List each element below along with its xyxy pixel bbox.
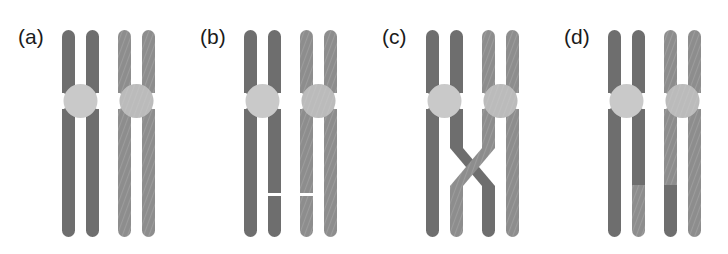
chromatid-upper-arm: [324, 30, 337, 93]
centromere: [610, 84, 644, 118]
chromatid-4: [316, 30, 338, 237]
recombinant-exchanged-segment: [632, 185, 645, 237]
chromatid-lower-arm-proximal-segment: [664, 109, 677, 185]
chromatid-lower-arm: [118, 109, 131, 237]
chromatid-lower-arm: [608, 109, 621, 237]
chromosome-pair-drawing: [0, 0, 182, 254]
centromere-hatch-overlay: [120, 84, 154, 118]
panel-d: (d): [546, 0, 728, 254]
chromatid-1: [62, 30, 84, 237]
double-strand-break-line: [299, 193, 314, 196]
chromatid-2: [260, 30, 283, 237]
panel-a: (a): [0, 0, 182, 254]
chromatid-upper-arm: [450, 30, 463, 93]
chromatid-upper-arm: [118, 30, 131, 93]
chromatid-4: [134, 30, 156, 237]
chromatid-3: [299, 30, 322, 237]
chromatid-upper-arm: [426, 30, 439, 93]
chromatid-2: [78, 30, 100, 237]
recombinant-exchanged-segment: [664, 185, 677, 237]
centromere: [246, 84, 280, 118]
chromatid-1: [608, 30, 630, 237]
chromatid-upper-arm: [608, 30, 621, 93]
chromatid-upper-arm: [688, 30, 701, 93]
chromatid-upper-arm: [300, 30, 313, 93]
centromere: [64, 84, 98, 118]
chromatid-upper-arm: [482, 30, 495, 93]
chromatid-lower-arm: [426, 109, 439, 237]
chromatid-lower-arm-proximal-segment: [632, 109, 645, 185]
panel-c: (c): [364, 0, 546, 254]
centromere-hatch-overlay: [666, 84, 700, 118]
chromatid-lower-arm: [62, 109, 75, 237]
chromatid-3: [118, 30, 140, 237]
chromatid-upper-arm: [664, 30, 677, 93]
chromatid-lower-arm: [86, 109, 99, 237]
chromatid-lower-arm: [324, 109, 337, 237]
panel-b: (b): [182, 0, 364, 254]
chromatid-upper-arm: [244, 30, 257, 93]
chromatid-upper-arm: [142, 30, 155, 93]
centromere: [428, 84, 462, 118]
chromatid-lower-arm: [268, 109, 281, 237]
chromosome-pair-drawing: [546, 0, 728, 254]
chromatid-2: [624, 30, 646, 237]
chromatid-1: [244, 30, 266, 237]
chromatid-lower-arm: [142, 109, 155, 237]
chromatid-lower-arm-distal-segment: [482, 186, 495, 237]
chromosome-pair-drawing: [364, 0, 546, 254]
chromatid-3: [664, 30, 686, 237]
chromosome-crossover-figure: (a)(b)(c)(d): [0, 0, 728, 254]
double-strand-break-line: [267, 193, 282, 196]
chromatid-upper-arm: [506, 30, 519, 93]
chromatid-lower-arm: [506, 109, 519, 237]
chromatid-lower-arm: [688, 109, 701, 237]
chromatid-upper-arm: [62, 30, 75, 93]
chromosome-pair-drawing: [182, 0, 364, 254]
chromatid-lower-arm-distal-segment: [450, 186, 463, 237]
chromatid-1: [426, 30, 448, 237]
chromatid-4: [498, 30, 520, 237]
chromatid-lower-arm: [300, 109, 313, 237]
chromatid-upper-arm: [632, 30, 645, 93]
chromatid-lower-arm: [244, 109, 257, 237]
centromere-hatch-overlay: [302, 84, 336, 118]
centromere-hatch-overlay: [484, 84, 518, 118]
chromatid-upper-arm: [268, 30, 281, 93]
chromatid-4: [680, 30, 702, 237]
chromatid-upper-arm: [86, 30, 99, 93]
